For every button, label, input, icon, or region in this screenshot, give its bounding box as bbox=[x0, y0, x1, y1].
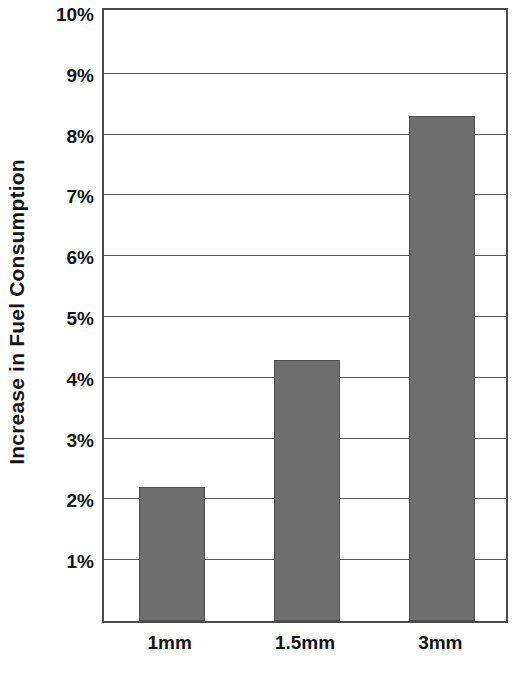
y-axis-title: Increase in Fuel Consumption bbox=[0, 0, 34, 623]
page-bottom-strip bbox=[0, 672, 532, 683]
bar bbox=[409, 116, 475, 621]
y-axis-tick-label: 10% bbox=[56, 4, 94, 26]
plot-area bbox=[102, 8, 508, 623]
x-axis-tick-label: 3mm bbox=[418, 632, 462, 654]
x-axis-tick-label: 1mm bbox=[147, 632, 191, 654]
x-axis-tick-label: 1.5mm bbox=[275, 632, 335, 654]
bar-chart: Increase in Fuel Consumption 1%2%3%4%5%6… bbox=[0, 0, 532, 683]
bar bbox=[274, 360, 340, 621]
x-axis-tick-labels: 1mm1.5mm3mm bbox=[102, 632, 508, 666]
bar bbox=[139, 487, 205, 621]
bars-layer bbox=[104, 10, 506, 621]
y-axis-tick-label: 3% bbox=[67, 430, 94, 452]
y-axis-tick-label: 6% bbox=[67, 247, 94, 269]
y-axis-tick-label: 5% bbox=[67, 308, 94, 330]
y-axis-title-text: Increase in Fuel Consumption bbox=[5, 159, 29, 464]
y-axis-tick-label: 9% bbox=[67, 65, 94, 87]
y-axis-tick-label: 1% bbox=[67, 551, 94, 573]
y-axis-tick-label: 4% bbox=[67, 369, 94, 391]
y-axis-tick-label: 7% bbox=[67, 186, 94, 208]
y-axis-tick-labels: 1%2%3%4%5%6%7%8%9%10% bbox=[34, 0, 102, 640]
y-axis-tick-label: 2% bbox=[67, 490, 94, 512]
y-axis-tick-label: 8% bbox=[67, 126, 94, 148]
